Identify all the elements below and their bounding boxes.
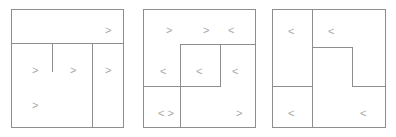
panel-3-arrow-bottom-left: < <box>288 108 294 119</box>
panel-1-horizontal-divider-upper <box>11 43 124 44</box>
panel-3-horizontal-notch-top <box>312 47 353 48</box>
panel-2-arrow-top-left: > <box>166 25 172 36</box>
panel-1-arrow-lower-left: > <box>32 100 38 111</box>
panel-3-horizontal-notch-bottom <box>352 86 386 87</box>
panel-1-arrow-mid-left: > <box>32 65 38 76</box>
panel-1-arrow-mid-right: > <box>105 65 111 76</box>
panel-2-arrow-pair-bottom-left: < > <box>158 108 174 119</box>
panel-1-arrow-mid-center: > <box>70 65 76 76</box>
panel-2-arrow-top-right: < <box>228 25 234 36</box>
panel-1-arrow-top-right: > <box>105 25 111 36</box>
panel-2-horizontal-divider-upper-right <box>180 44 256 45</box>
panel-2-arrow-mid-left: < <box>160 66 166 77</box>
panel-3-arrow-top-left: < <box>288 26 294 37</box>
panel-2-arrow-top-center: > <box>203 25 209 36</box>
panel-1-vertical-divider-right <box>92 43 93 128</box>
panel-3-arrow-bottom-right: < <box>360 108 366 119</box>
figure-canvas: >>>>>>><<<<< >><<<< <box>0 0 396 137</box>
panel-3-vertical-notch-right <box>352 47 353 87</box>
panel-3-arrow-top-center: < <box>328 26 334 37</box>
panel-2-arrow-mid-right: < <box>232 66 238 77</box>
panel-2-vertical-divider-inner-left <box>180 44 181 87</box>
panel-3-vertical-divider-main <box>312 9 313 128</box>
panel-2-horizontal-divider-lower-left <box>143 86 221 87</box>
panel-2-arrow-mid-center: < <box>196 66 202 77</box>
panel-2-arrow-bottom-right: > <box>236 108 242 119</box>
panel-1-vertical-stub-center <box>52 43 53 72</box>
panel-2-vertical-divider-bottom <box>180 86 181 128</box>
panel-2-vertical-divider-inner-right <box>220 44 221 87</box>
panel-3-horizontal-divider-left <box>272 86 313 87</box>
